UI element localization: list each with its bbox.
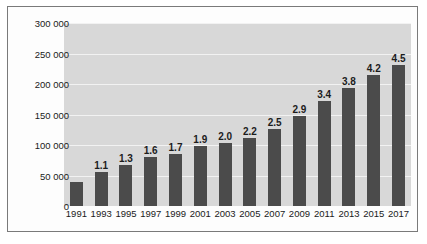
bar-value-label: 1.7 [169,142,183,153]
bar-value-label: 4.5 [392,53,406,64]
bar-slot: 2.2 [237,23,262,206]
bar[interactable]: 1.6 [144,157,157,206]
x-axis-tick-label: 2011 [312,208,337,219]
x-axis-tick-label: 1997 [138,208,163,219]
x-axis-tick-label: 1999 [163,208,188,219]
bar[interactable]: 1.3 [119,165,132,206]
bar[interactable]: 1.9 [194,146,207,206]
x-axis-tick-label: 2009 [287,208,312,219]
bar[interactable] [70,182,83,206]
bar-value-label: 4.2 [367,63,381,74]
bar-slot: 2.0 [213,23,238,206]
x-axis-tick-label: 2007 [262,208,287,219]
bar-value-label: 2.2 [243,126,257,137]
bar-slot: 1.1 [89,23,114,206]
bar[interactable]: 1.7 [169,154,182,206]
y-axis-tick-label: 200 000 [0,79,69,90]
bar-slot: 1.7 [163,23,188,206]
bar-value-label: 3.8 [342,76,356,87]
bar[interactable]: 3.4 [318,101,331,206]
bar-slot: 2.9 [287,23,312,206]
bar[interactable]: 2.2 [243,138,256,206]
x-axis-tick-label: 2005 [237,208,262,219]
x-axis-tick-label: 2017 [386,208,411,219]
bar-slot: 3.4 [312,23,337,206]
bar-slot: 1.6 [138,23,163,206]
bar-slot: 2.5 [262,23,287,206]
chart-figure: 1.11.31.61.71.92.02.22.52.93.43.84.24.5 … [7,6,418,232]
bar-series: 1.11.31.61.71.92.02.22.52.93.43.84.24.5 [64,23,411,206]
x-axis-tick-label: 2001 [188,208,213,219]
bar[interactable]: 2.5 [268,129,281,206]
bar-value-label: 2.5 [268,117,282,128]
plot-area: 1.11.31.61.71.92.02.22.52.93.43.84.24.5 [64,23,411,206]
y-axis-tick-label: 300 000 [0,18,69,29]
x-axis-tick-label: 1995 [114,208,139,219]
bar-value-label: 2.0 [218,131,232,142]
chart-plot-shell: 1.11.31.61.71.92.02.22.52.93.43.84.24.5 … [8,7,417,231]
y-axis-tick-label: 250 000 [0,48,69,59]
bar-value-label: 3.4 [317,89,331,100]
y-axis-tick-label: 100 000 [0,140,69,151]
bar-value-label: 1.6 [144,145,158,156]
y-axis-tick-label: 50 000 [0,170,69,181]
x-axis-tick-label: 1993 [89,208,114,219]
bar-slot: 1.3 [114,23,139,206]
x-axis-tick-labels: 1991199319951997199920012003200520072009… [64,208,411,219]
x-axis-tick-label: 2015 [361,208,386,219]
y-axis-tick-label: 0 [0,201,69,212]
bar[interactable]: 4.5 [392,65,405,206]
bar-slot: 4.2 [361,23,386,206]
bar[interactable]: 2.0 [219,143,232,206]
bar[interactable]: 4.2 [367,75,380,206]
x-axis-tick-label: 2013 [337,208,362,219]
bar[interactable]: 3.8 [342,88,355,206]
bar-value-label: 1.3 [119,153,133,164]
bar-value-label: 1.9 [193,134,207,145]
bar-slot: 1.9 [188,23,213,206]
bar-slot: 3.8 [337,23,362,206]
x-axis-tick-label: 2003 [213,208,238,219]
bar-value-label: 1.1 [94,160,108,171]
bar[interactable]: 2.9 [293,116,306,206]
bar-slot: 4.5 [386,23,411,206]
bar-value-label: 2.9 [292,104,306,115]
y-axis-tick-label: 150 000 [0,109,69,120]
bar[interactable]: 1.1 [95,172,108,206]
